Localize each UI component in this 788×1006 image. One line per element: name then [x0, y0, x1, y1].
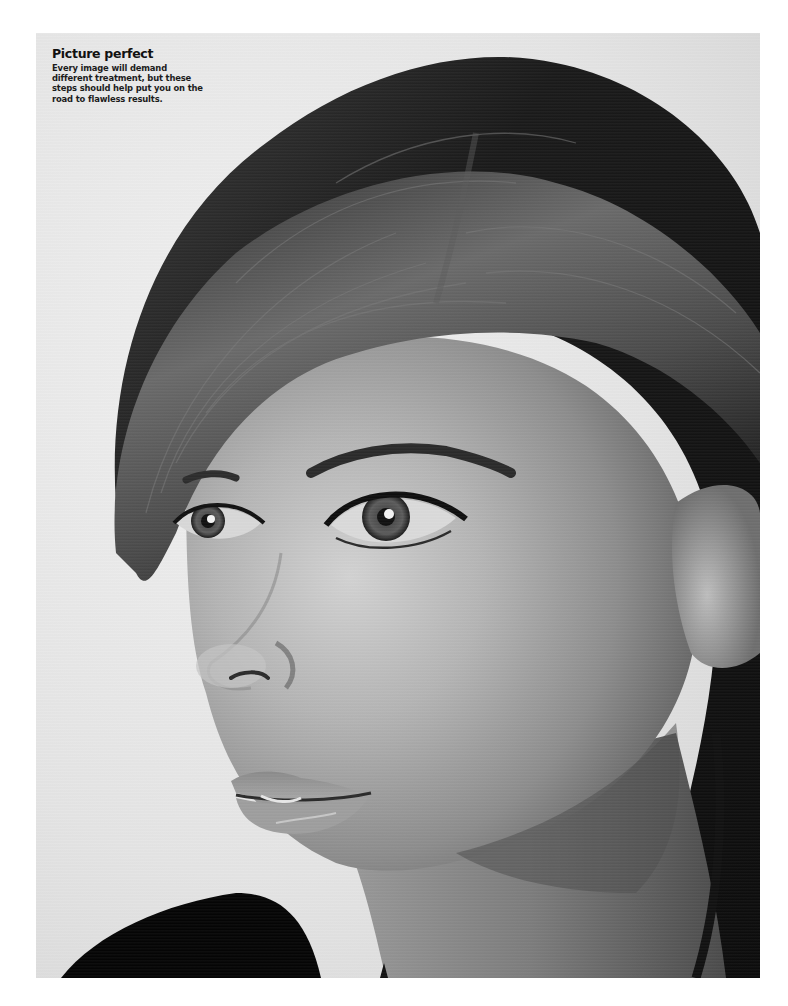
caption-line: steps should help put you on the [52, 83, 203, 93]
caption-box: Picture perfect Every image will demand … [52, 46, 222, 104]
portrait-photo [36, 33, 760, 978]
caption-line: road to flawless results. [52, 94, 163, 104]
caption-body: Every image will demand different treatm… [52, 63, 222, 104]
caption-title: Picture perfect [52, 46, 222, 61]
caption-line: Every image will demand [52, 63, 167, 73]
caption-line: different treatment, but these [52, 73, 191, 83]
portrait-illustration [36, 33, 760, 978]
